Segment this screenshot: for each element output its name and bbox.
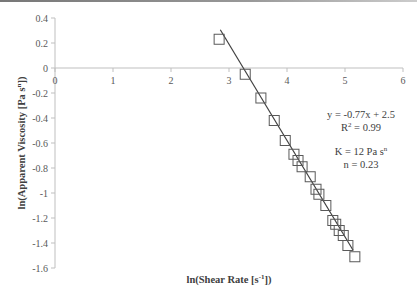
x-tick-label: 0 [53,75,58,86]
x-tick-label: 3 [227,75,232,86]
y-tick-label: -1.2 [32,213,48,224]
scatter-chart: 0.40.20-0.2-0.4-0.6-0.8-1-1.2-1.4-1.6012… [0,0,417,298]
x-axis-title: ln(Shear Rate [s-1]) [187,273,272,286]
y-tick-label: -0.6 [32,138,48,149]
r-squared-label: R2 = 0.99 [341,121,381,133]
y-tick-label: -1.4 [32,238,48,249]
y-tick-label: 0.2 [36,38,49,49]
trendline-path [220,30,353,250]
n-value-label: n = 0.23 [344,159,379,170]
y-tick-label: -1.6 [32,263,48,274]
data-point-marker [214,34,224,44]
y-tick-label: 0 [43,63,48,74]
data-point-marker [350,252,360,262]
trendline [220,30,353,250]
annotation-box: y = -0.77x + 2.5 R2 = 0.99 K = 12 Pa sn … [327,109,395,170]
x-tick-label: 1 [111,75,116,86]
equation-label: y = -0.77x + 2.5 [327,109,395,120]
axes: 0.40.20-0.2-0.4-0.6-0.8-1-1.2-1.4-1.6012… [32,13,405,274]
x-tick-label: 2 [169,75,174,86]
y-tick-label: -0.8 [32,163,48,174]
y-tick-label: -0.4 [32,113,48,124]
x-tick-label: 5 [343,75,348,86]
y-tick-label: -0.2 [32,88,48,99]
y-axis-title: ln(Apparent Viscosity [Pa sn]) [15,76,28,209]
x-tick-label: 4 [285,75,290,86]
y-tick-label: -1 [40,188,48,199]
y-tick-label: 0.4 [36,13,49,24]
k-value-label: K = 12 Pa sn [335,145,388,157]
x-tick-label: 6 [401,75,406,86]
